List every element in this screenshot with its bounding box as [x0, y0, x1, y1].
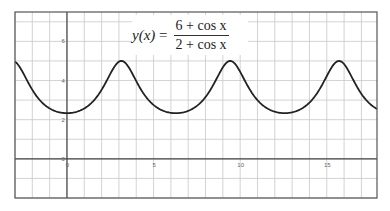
x-tick-label: 10	[237, 162, 244, 168]
x-tick-label: 0	[66, 162, 70, 168]
formula-numerator: 6 + cos x	[174, 18, 229, 36]
function-curve	[15, 61, 377, 113]
formula-equals: =	[159, 27, 167, 43]
x-tick-label: 5	[152, 162, 156, 168]
formula-denominator: 2 + cos x	[174, 36, 229, 53]
tick-labels: 0510150246	[62, 38, 332, 167]
formula-label: y(x) = 6 + cos x 2 + cos x	[132, 15, 248, 55]
formula-fraction: 6 + cos x 2 + cos x	[174, 18, 229, 53]
x-tick-label: 15	[324, 162, 331, 168]
formula-lhs: y(x) =	[132, 27, 168, 44]
formula-lhs-text: y(x)	[132, 27, 155, 43]
